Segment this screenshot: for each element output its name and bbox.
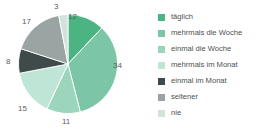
legend-swatch-icon bbox=[158, 62, 165, 69]
legend-item-label: einmal im Monat bbox=[171, 77, 227, 85]
pie-slice-group bbox=[19, 15, 118, 114]
legend-swatch-icon bbox=[158, 78, 165, 85]
legend-item[interactable]: täglich bbox=[158, 9, 264, 25]
legend-item-label: mehrmals die Woche bbox=[171, 29, 242, 37]
slice-value-seltener: 17 bbox=[22, 18, 31, 26]
pie-svg bbox=[18, 14, 118, 114]
legend-swatch-icon bbox=[158, 14, 165, 21]
slice-value-einmal-im-monat: 8 bbox=[6, 58, 10, 66]
pie-chart-figure: 12 34 11 15 8 17 3 täglichmehrmals die W… bbox=[0, 0, 264, 132]
legend-swatch-icon bbox=[158, 94, 165, 101]
pie-plot-area: 12 34 11 15 8 17 3 bbox=[0, 0, 150, 132]
legend-swatch-icon bbox=[158, 110, 165, 117]
legend-item-label: nie bbox=[171, 109, 181, 117]
slice-value-nie: 3 bbox=[54, 3, 58, 11]
legend-item[interactable]: mehrmals im Monat bbox=[158, 57, 264, 73]
legend-item[interactable]: seltener bbox=[158, 89, 264, 105]
legend-item[interactable]: einmal im Monat bbox=[158, 73, 264, 89]
slice-value-mehrmals-die-woche: 34 bbox=[113, 62, 122, 70]
legend-item-label: mehrmals im Monat bbox=[171, 61, 238, 69]
legend-item[interactable]: nie bbox=[158, 105, 264, 121]
slice-value-einmal-die-woche: 11 bbox=[62, 118, 70, 126]
legend-item-label: seltener bbox=[171, 93, 198, 101]
chart-legend: täglichmehrmals die Wocheeinmal die Woch… bbox=[158, 9, 264, 121]
legend-swatch-icon bbox=[158, 30, 165, 37]
legend-item-label: täglich bbox=[171, 13, 193, 21]
legend-swatch-icon bbox=[158, 46, 165, 53]
slice-value-taeglich: 12 bbox=[68, 13, 77, 21]
legend-item-label: einmal die Woche bbox=[171, 45, 231, 53]
slice-value-mehrmals-im-monat: 15 bbox=[18, 105, 27, 113]
legend-item[interactable]: einmal die Woche bbox=[158, 41, 264, 57]
legend-item[interactable]: mehrmals die Woche bbox=[158, 25, 264, 41]
